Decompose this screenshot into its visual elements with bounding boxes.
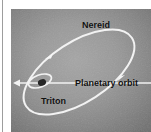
nereid-label: Nereid [82, 21, 110, 30]
orbit-diagram-graphic [11, 9, 151, 132]
figure-root: Nereid Planetary orbit Triton [0, 0, 151, 132]
page-left-rule [2, 0, 3, 132]
triton-label: Triton [41, 97, 66, 106]
diagram-background-grain [11, 9, 151, 132]
planetary-orbit-label: Planetary orbit [75, 79, 138, 88]
orbit-diagram-panel: Nereid Planetary orbit Triton [11, 9, 151, 132]
